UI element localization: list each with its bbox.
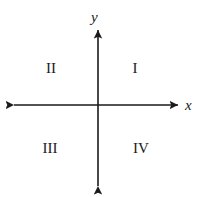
y-axis-label: y xyxy=(91,10,98,25)
axes-graphic xyxy=(0,0,204,197)
coordinate-plane-diagram: y x I II III IV xyxy=(0,0,204,197)
quadrant-label-iv: IV xyxy=(133,141,149,156)
quadrant-label-ii: II xyxy=(46,61,56,76)
quadrant-label-iii: III xyxy=(43,141,58,156)
quadrant-label-i: I xyxy=(133,61,138,76)
x-axis-label: x xyxy=(185,98,192,113)
